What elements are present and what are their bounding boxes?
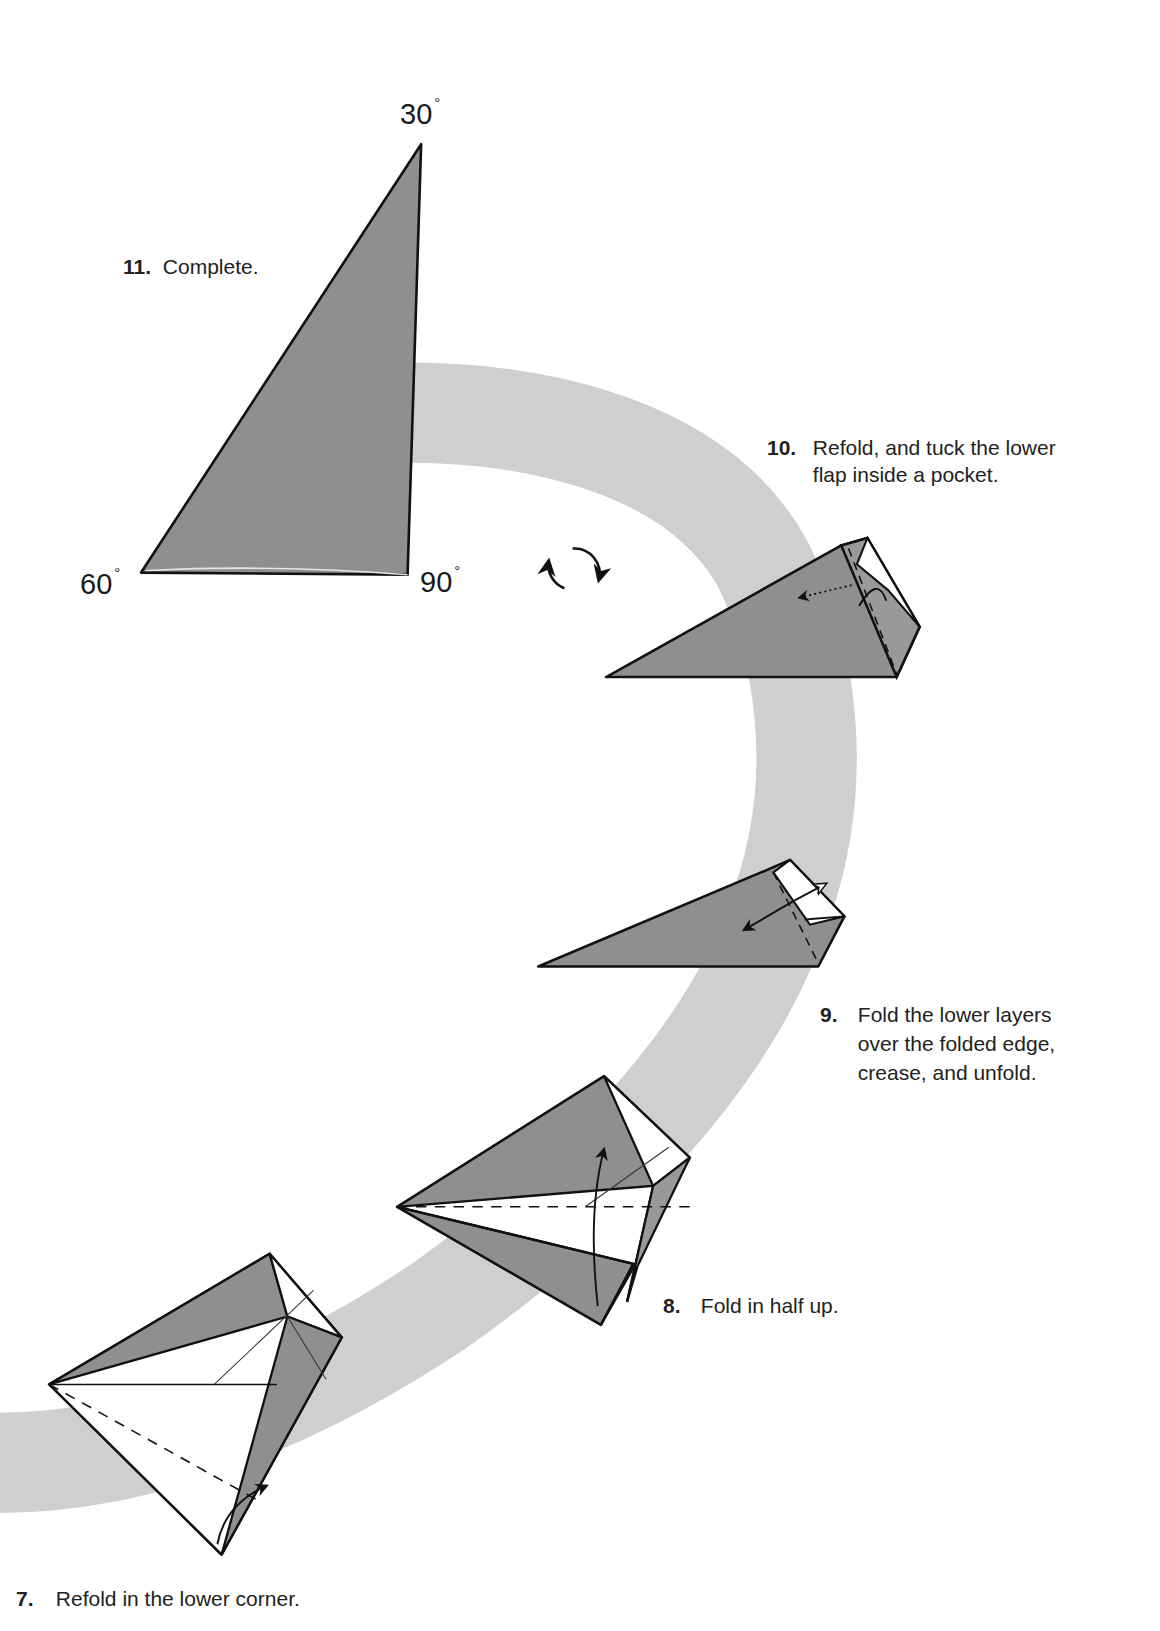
degree-symbol: ° xyxy=(114,564,120,581)
degree-symbol: ° xyxy=(454,562,460,579)
step-text: Refold, and tuck the lower flap inside a… xyxy=(813,434,1056,488)
turn-over-arrows-icon xyxy=(548,548,599,588)
step-9-model xyxy=(538,860,844,967)
step-7-model xyxy=(49,1254,342,1555)
step-number: 7. xyxy=(16,1585,50,1612)
step-number: 8. xyxy=(663,1292,695,1319)
step-11-triangle xyxy=(141,144,421,574)
step-10-caption: 10. Refold, and tuck the lower flap insi… xyxy=(767,434,1056,488)
folding-diagram xyxy=(0,0,1160,1631)
step-number: 9. xyxy=(820,1000,852,1029)
angle-right-value: 90 xyxy=(420,566,452,598)
step-text-line: over the folded edge, xyxy=(858,1032,1055,1055)
step-text: Fold in half up. xyxy=(701,1292,839,1319)
degree-symbol: ° xyxy=(434,94,440,111)
step-text-line: flap inside a pocket. xyxy=(813,463,999,486)
step-9-caption: 9. Fold the lower layers over the folded… xyxy=(820,1000,1055,1087)
step-text-line: Refold, and tuck the lower xyxy=(813,436,1056,459)
angle-label-left: 60° xyxy=(80,568,120,601)
angle-label-top: 30° xyxy=(400,98,440,131)
step-number: 11. xyxy=(123,253,157,280)
step-number: 10. xyxy=(767,434,807,461)
step-8-caption: 8. Fold in half up. xyxy=(663,1292,839,1319)
angle-label-right: 90° xyxy=(420,566,460,599)
step-text-line: crease, and unfold. xyxy=(858,1061,1037,1084)
step-text-line: Fold the lower layers xyxy=(858,1003,1052,1026)
angle-top-value: 30 xyxy=(400,98,432,130)
angle-left-value: 60 xyxy=(80,568,112,600)
step-11-caption: 11. Complete. xyxy=(123,253,259,280)
step-text: Fold the lower layers over the folded ed… xyxy=(858,1000,1055,1087)
step-text: Complete. xyxy=(163,253,259,280)
step-text: Refold in the lower corner. xyxy=(56,1585,300,1612)
step-7-caption: 7. Refold in the lower corner. xyxy=(16,1585,300,1612)
